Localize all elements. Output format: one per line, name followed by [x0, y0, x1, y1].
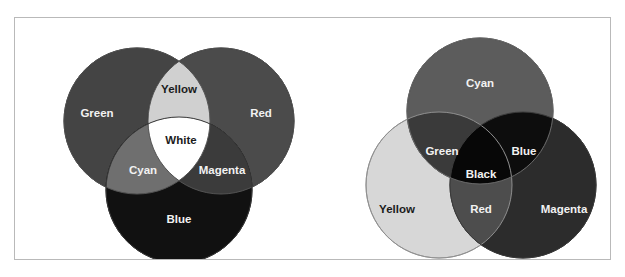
screenshot-root: Green Red Blue Yellow Cyan Magenta White [0, 0, 625, 277]
venn-diagram-subtractive: Cyan Yellow Magenta Green Blue Red Black [340, 18, 612, 259]
figure-frame: Green Red Blue Yellow Cyan Magenta White [14, 17, 611, 260]
venn-diagram-additive: Green Red Blue Yellow Cyan Magenta White [29, 18, 329, 259]
